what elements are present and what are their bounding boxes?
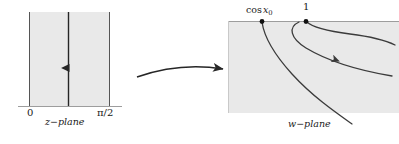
z-plane-tick-label-origin: 0 xyxy=(27,108,33,118)
mapping-arrow xyxy=(137,67,223,77)
w-plane-point-label-one: 1 xyxy=(303,2,309,12)
w-plane-caption: w−plane xyxy=(288,119,331,129)
z-plane-strip-shading xyxy=(29,12,110,106)
w-plane-point-label-cos-x0: cos x0 xyxy=(246,5,273,16)
cos-argument-subscript: 0 xyxy=(268,9,272,17)
mapping-arrow-group xyxy=(137,67,223,77)
w-plane-point-one-marker xyxy=(304,19,309,24)
w-plane-halfplane-shading xyxy=(228,21,399,113)
z-plane-tick-label-pi-over-two: π/2 xyxy=(97,108,113,118)
conformal-mapping-figure: 0 π/2 z−plane cos x0 1 w−plane xyxy=(0,0,399,144)
cos-function-name: cos xyxy=(246,4,262,15)
left-panel-z-plane xyxy=(18,12,122,107)
w-plane-point-cos-x0-marker xyxy=(260,19,265,24)
right-panel-w-plane xyxy=(228,19,399,124)
z-plane-caption: z−plane xyxy=(45,117,85,127)
